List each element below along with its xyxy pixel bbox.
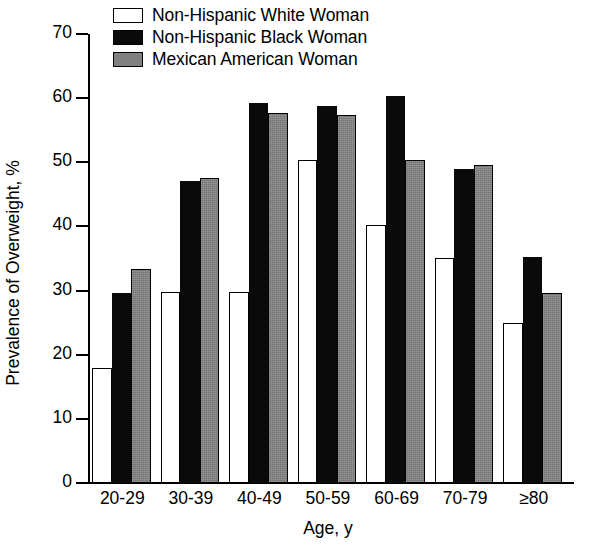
bar-chart-figure: Non-Hispanic White Woman Non-Hispanic Bl… bbox=[0, 0, 599, 546]
y-axis-tick-label: 20 bbox=[28, 343, 72, 364]
x-axis-title: Age, y bbox=[88, 518, 568, 539]
bar bbox=[366, 225, 386, 483]
y-axis-tick-mark bbox=[76, 290, 88, 292]
y-axis-tick-mark bbox=[76, 225, 88, 227]
y-axis-title: Prevalence of Overweight, % bbox=[0, 0, 26, 546]
bar bbox=[386, 96, 406, 483]
y-axis-tick-label: 60 bbox=[28, 86, 72, 107]
y-axis-tick-label: 70 bbox=[28, 22, 72, 43]
bar bbox=[298, 160, 318, 483]
y-axis-tick-mark bbox=[76, 418, 88, 420]
bar bbox=[542, 293, 562, 483]
bar bbox=[180, 181, 200, 483]
x-axis-tick-label: 50-59 bbox=[294, 488, 363, 509]
bar bbox=[337, 115, 357, 483]
bar bbox=[405, 160, 425, 483]
bar bbox=[435, 258, 455, 483]
bar bbox=[200, 178, 220, 483]
bar bbox=[112, 293, 132, 483]
bar bbox=[474, 165, 494, 483]
bar bbox=[229, 292, 249, 483]
y-axis-tick-label: 0 bbox=[28, 471, 72, 492]
y-axis-tick-label: 50 bbox=[28, 150, 72, 171]
bar bbox=[523, 257, 543, 483]
white-swatch-icon bbox=[113, 8, 143, 23]
y-axis-tick-mark bbox=[76, 161, 88, 163]
bar bbox=[161, 292, 181, 483]
legend-item-label: Non-Hispanic White Woman bbox=[152, 6, 369, 25]
bar bbox=[92, 368, 112, 483]
x-axis-tick-label: 40-49 bbox=[225, 488, 294, 509]
bar bbox=[317, 106, 337, 483]
y-axis-tick-label: 10 bbox=[28, 407, 72, 428]
y-axis-tick-mark bbox=[76, 482, 88, 484]
x-axis-tick-label: ≥80 bbox=[499, 488, 568, 509]
x-axis-tick-label: 20-29 bbox=[88, 488, 157, 509]
plot-area bbox=[88, 34, 568, 483]
y-axis-tick-mark bbox=[76, 354, 88, 356]
x-axis-tick-label: 60-69 bbox=[362, 488, 431, 509]
y-axis-tick-label: 40 bbox=[28, 214, 72, 235]
y-axis-tick-mark bbox=[76, 33, 88, 35]
bar bbox=[503, 323, 523, 483]
bar bbox=[454, 169, 474, 483]
bar bbox=[249, 103, 269, 483]
bar bbox=[268, 113, 288, 483]
x-axis-tick-label: 70-79 bbox=[431, 488, 500, 509]
y-axis-tick-label: 30 bbox=[28, 279, 72, 300]
x-axis-tick-label: 30-39 bbox=[157, 488, 226, 509]
legend-item-non-hispanic-white-woman: Non-Hispanic White Woman bbox=[113, 6, 369, 25]
bar bbox=[131, 269, 151, 483]
y-axis-tick-mark bbox=[76, 97, 88, 99]
